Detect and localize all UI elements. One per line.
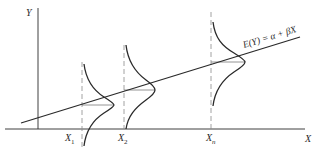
y-axis-label: Y — [26, 7, 33, 18]
x-axis-label: X — [304, 133, 312, 144]
regression-diagram: Y X E(Y) = α + βX X1 X2 Xn — [0, 0, 322, 161]
x2-label: X2 — [117, 132, 128, 146]
xn-normal-curve — [213, 22, 245, 106]
regression-equation-label: E(Y) = α + βX — [241, 24, 299, 51]
x2-normal-curve — [126, 45, 155, 129]
x1-label: X1 — [64, 132, 75, 146]
regression-line — [21, 37, 300, 123]
xn-label: Xn — [205, 132, 216, 146]
